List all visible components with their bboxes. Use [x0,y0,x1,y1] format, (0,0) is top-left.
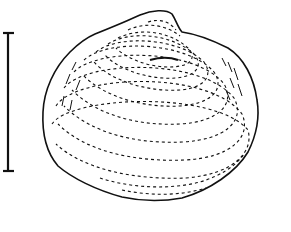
shell-outline [43,11,258,201]
shell-figure [0,0,291,232]
scale-bar [3,33,14,171]
umbo-mark [150,58,178,60]
right-hatching [222,58,242,100]
left-hatching [62,62,80,110]
growth-lines [52,20,249,194]
